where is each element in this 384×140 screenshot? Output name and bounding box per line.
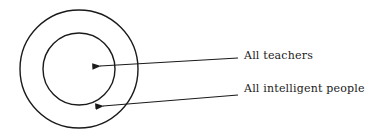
inner-circle-teachers xyxy=(43,33,115,105)
outer-circle-intelligent-people xyxy=(20,10,138,128)
label-all-teachers: All teachers xyxy=(244,49,313,62)
arrow-intelligent-people xyxy=(103,95,238,106)
label-all-intelligent-people: All intelligent people xyxy=(244,82,365,95)
arrow-teachers xyxy=(100,58,238,66)
euler-diagram xyxy=(0,0,384,140)
